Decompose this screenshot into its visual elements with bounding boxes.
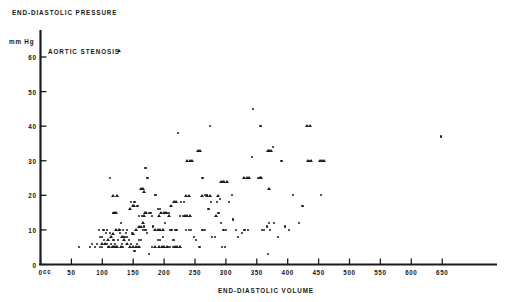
- y-tick-label: 20: [25, 191, 37, 199]
- x-tick-label: 100: [92, 268, 112, 276]
- scatter-chart: END-DIASTOLIC PRESSURE mm Hg cc END-DIAS…: [0, 0, 512, 302]
- x-tick-label: 550: [370, 268, 390, 276]
- y-tick-label: 30: [25, 157, 37, 165]
- x-tick-label: 500: [340, 268, 360, 276]
- legend-item-label-aortic-stenosis: AORTIC STENOSIS: [48, 47, 120, 56]
- x-tick-label: 150: [123, 268, 143, 276]
- x-tick-label: 400: [278, 268, 298, 276]
- x-tick-label: 650: [432, 268, 452, 276]
- x-tick-label: 600: [401, 268, 421, 276]
- x-tick-label: 200: [154, 268, 174, 276]
- y-tick-label: 40: [25, 122, 37, 130]
- x-tick-label: 350: [247, 268, 267, 276]
- y-tick-label: 50: [25, 88, 37, 96]
- x-tick-label: 300: [216, 268, 236, 276]
- axes-lines: [0, 0, 512, 302]
- x-tick-label: 450: [309, 268, 329, 276]
- x-tick-label: 0: [31, 268, 51, 276]
- x-tick-label: 50: [61, 268, 81, 276]
- x-tick-label: 250: [185, 268, 205, 276]
- y-tick-label: 10: [25, 226, 37, 234]
- y-tick-label: 60: [25, 53, 37, 61]
